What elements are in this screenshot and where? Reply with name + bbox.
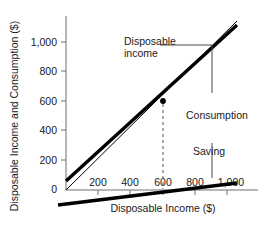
x-tick-label-400: 400 — [121, 176, 139, 188]
y-tick-label-0: 0 — [51, 183, 57, 195]
y-tick-label-200: 200 — [39, 154, 57, 166]
y-tick-label-800: 800 — [39, 65, 57, 77]
breakeven-point-marker — [160, 98, 166, 104]
annotation-disposable-income-line1: Disposable — [124, 35, 176, 47]
y-tick-label-400: 400 — [39, 124, 57, 136]
annotation-saving: Saving — [193, 145, 225, 157]
y-axis-title: Disposable Income and Consumption ($) — [8, 21, 20, 211]
y-tick-label-600: 600 — [39, 95, 57, 107]
x-tick-label-200: 200 — [89, 176, 107, 188]
y-tick-label-1000: 1,000 — [31, 36, 57, 48]
chart-plot-area: 1,000 800 600 400 200 0 200 400 600 800 … — [0, 0, 268, 232]
chart-figure: 1,000 800 600 400 200 0 200 400 600 800 … — [0, 0, 268, 232]
annotation-consumption: Consumption — [186, 109, 248, 121]
annotation-disposable-income-line2: income — [124, 47, 158, 59]
x-axis-title: Disposable Income ($) — [110, 202, 215, 214]
